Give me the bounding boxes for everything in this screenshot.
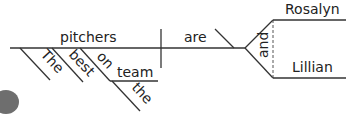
compound-word-rosalyn: Rosalyn: [285, 1, 340, 17]
subject-word: pitchers: [60, 29, 117, 45]
predicate-slant: [215, 29, 234, 48]
decorative-blob: [0, 90, 19, 114]
verb-word: are: [184, 29, 207, 45]
compound-word-lillian: Lillian: [292, 59, 333, 75]
sentence-diagram: pitchers are The best on team the and Ro…: [0, 0, 359, 121]
conjunction-and: and: [255, 32, 271, 58]
prep-object-team: team: [117, 64, 153, 80]
